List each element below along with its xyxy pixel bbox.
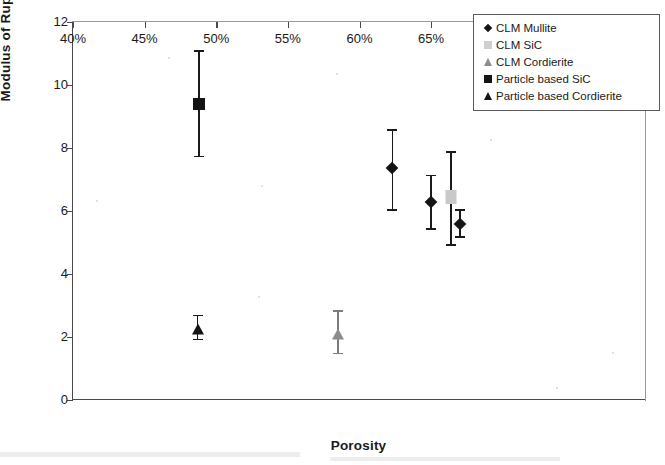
y-tick-label: 8: [28, 139, 68, 157]
legend-swatch-icon: [481, 92, 495, 100]
legend-swatch-icon: [481, 41, 495, 49]
legend-item-label: CLM Mullite: [496, 22, 557, 34]
scan-speck: [258, 296, 260, 298]
error-bar-cap: [426, 175, 436, 177]
point-marker-triangle: [192, 324, 204, 335]
x-tick-label: 55%: [275, 31, 301, 46]
legend-item[interactable]: CLM Mullite: [481, 20, 654, 36]
y-tick-label: 6: [28, 202, 68, 220]
y-tick-label: 12: [28, 13, 68, 31]
x-tick-mark: [431, 22, 432, 28]
scatter-chart: Modulus of Rupture (MPa) Porosity 024681…: [0, 0, 665, 465]
x-tick-mark: [145, 22, 146, 28]
x-axis-title: Porosity: [72, 438, 645, 453]
chart-legend: CLM MulliteCLM SiCCLM CordieriteParticle…: [473, 14, 660, 111]
point-marker-diamond: [386, 162, 399, 175]
y-axis-title: Modulus of Rupture (MPa): [0, 0, 13, 125]
scan-speck: [96, 200, 98, 202]
scan-edge-smudge: [0, 452, 300, 457]
point-marker-diamond: [453, 217, 466, 230]
error-bar-cap: [446, 244, 456, 246]
x-tick-label: 60%: [346, 31, 372, 46]
x-tick-mark: [216, 22, 217, 28]
error-bar-cap: [194, 156, 204, 158]
point-marker-square: [446, 190, 457, 204]
scan-speck: [556, 387, 558, 389]
legend-swatch-icon: [481, 58, 495, 66]
scan-speck: [168, 57, 170, 59]
scan-speck: [612, 352, 614, 354]
legend-item[interactable]: CLM Cordierite: [481, 54, 654, 70]
legend-item-label: Particle based SiC: [496, 73, 591, 85]
x-tick-mark: [288, 22, 289, 28]
error-bar-cap: [446, 151, 456, 153]
error-bar-cap: [426, 228, 436, 230]
legend-item-label: Particle based Cordierite: [496, 90, 622, 102]
error-bar-cap: [194, 50, 204, 52]
error-bar-cap: [333, 353, 343, 355]
y-tick-label: 10: [28, 76, 68, 94]
scan-speck: [261, 185, 263, 187]
point-marker-square: [193, 98, 205, 110]
x-tick-label: 65%: [418, 31, 444, 46]
point-marker-diamond: [425, 195, 438, 208]
error-bar-cap: [333, 310, 343, 312]
point-marker-triangle: [332, 328, 344, 339]
scan-speck: [490, 139, 492, 141]
error-bar-cap: [455, 236, 465, 238]
legend-swatch-icon: [481, 25, 495, 31]
error-bar-cap: [193, 315, 203, 317]
y-tick-label: 2: [28, 328, 68, 346]
legend-item-label: CLM SiC: [496, 39, 542, 51]
x-tick-label: 50%: [203, 31, 229, 46]
legend-item[interactable]: Particle based SiC: [481, 71, 654, 87]
legend-item[interactable]: CLM SiC: [481, 37, 654, 53]
error-bar-cap: [387, 209, 397, 211]
scan-speck: [336, 73, 338, 75]
error-bar-cap: [455, 209, 465, 211]
error-bar-cap: [193, 339, 203, 341]
legend-swatch-icon: [481, 75, 495, 83]
legend-item[interactable]: Particle based Cordierite: [481, 88, 654, 104]
scan-edge-smudge: [330, 457, 560, 461]
x-tick-label: 45%: [132, 31, 158, 46]
x-tick-label: 40%: [60, 31, 86, 46]
error-bar-cap: [387, 129, 397, 131]
y-tick-label: 0: [28, 391, 68, 409]
x-tick-mark: [73, 22, 74, 28]
x-tick-mark: [360, 22, 361, 28]
legend-item-label: CLM Cordierite: [496, 56, 573, 68]
y-tick-label: 4: [28, 265, 68, 283]
